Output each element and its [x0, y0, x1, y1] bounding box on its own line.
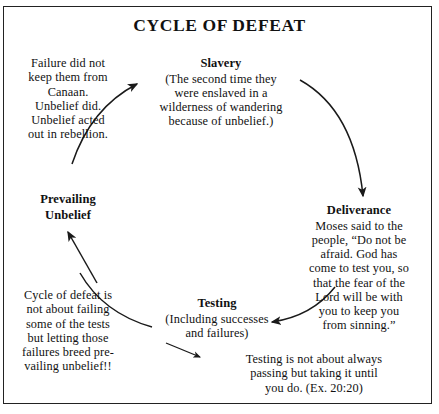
note-cycle-line-6: vailing unbelief!! — [8, 359, 128, 373]
note-cycle-body: Cycle of defeat is not about failing som… — [8, 288, 128, 374]
node-testing-title: Testing — [148, 296, 286, 311]
note-cycle-line-3: some of the tests — [8, 317, 128, 331]
node-prevailing-unbelief: Prevailing Unbelief — [14, 192, 122, 223]
note-failure-line-6: out in rebellion. — [8, 127, 128, 141]
note-cycle: Cycle of defeat is not about failing som… — [8, 288, 128, 374]
node-slavery-line-1: (The second time they — [141, 72, 301, 86]
node-deliverance-line-2: people, “Do not be — [290, 233, 428, 247]
note-testing-line-3: you do. (Ex. 20:20) — [205, 381, 423, 395]
note-failure-line-1: Failure did not — [8, 56, 128, 70]
note-failure-line-3: Canaan. — [8, 85, 128, 99]
note-failure-line-4: Unbelief did. — [8, 99, 128, 113]
note-failure-line-2: keep them from — [8, 70, 128, 84]
note-testing: Testing is not about always passing but … — [205, 352, 423, 395]
node-slavery-body: (The second time they were enslaved in a… — [141, 72, 301, 129]
node-deliverance-line-6: Lord will be with — [290, 290, 428, 304]
node-slavery-line-2: were enslaved in a — [141, 86, 301, 100]
note-cycle-line-4: but letting those — [8, 331, 128, 345]
node-deliverance-line-4: come to test you, so — [290, 261, 428, 275]
node-deliverance: Deliverance Moses said to the people, “D… — [290, 203, 428, 333]
node-deliverance-line-5: that the fear of the — [290, 276, 428, 290]
node-slavery-title: Slavery — [141, 56, 301, 71]
note-cycle-line-1: Cycle of defeat is — [8, 288, 128, 302]
note-failure: Failure did not keep them from Canaan. U… — [8, 56, 128, 142]
note-failure-line-5: Unbelief acted — [8, 113, 128, 127]
diagram-page: CYCLE OF DEFEAT Slavery (The second time… — [0, 0, 439, 414]
note-cycle-line-2: not about failing — [8, 302, 128, 316]
node-deliverance-body: Moses said to the people, “Do not be afr… — [290, 219, 428, 333]
node-slavery-line-3: wilderness of wandering — [141, 100, 301, 114]
note-testing-body: Testing is not about always passing but … — [205, 352, 423, 395]
node-slavery-line-4: because of unbelief.) — [141, 114, 301, 128]
node-deliverance-line-1: Moses said to the — [290, 219, 428, 233]
note-testing-line-1: Testing is not about always — [205, 352, 423, 366]
node-prevailing-unbelief-line-1: Prevailing — [14, 192, 122, 207]
node-prevailing-unbelief-line-2: Unbelief — [14, 208, 122, 223]
page-title: CYCLE OF DEFEAT — [0, 15, 439, 36]
node-testing-line-2: and failures) — [148, 326, 286, 340]
node-deliverance-title: Deliverance — [290, 203, 428, 218]
note-failure-body: Failure did not keep them from Canaan. U… — [8, 56, 128, 142]
note-cycle-line-5: failures breed pre- — [8, 345, 128, 359]
node-deliverance-line-7: you to keep you — [290, 304, 428, 318]
node-testing: Testing (Including successes and failure… — [148, 296, 286, 340]
node-testing-body: (Including successes and failures) — [148, 312, 286, 341]
node-deliverance-line-3: afraid. God has — [290, 247, 428, 261]
note-testing-line-2: passing but taking it until — [205, 366, 423, 380]
node-slavery: Slavery (The second time they were ensla… — [141, 56, 301, 129]
node-testing-line-1: (Including successes — [148, 312, 286, 326]
node-deliverance-line-8: from sinning.” — [290, 318, 428, 332]
